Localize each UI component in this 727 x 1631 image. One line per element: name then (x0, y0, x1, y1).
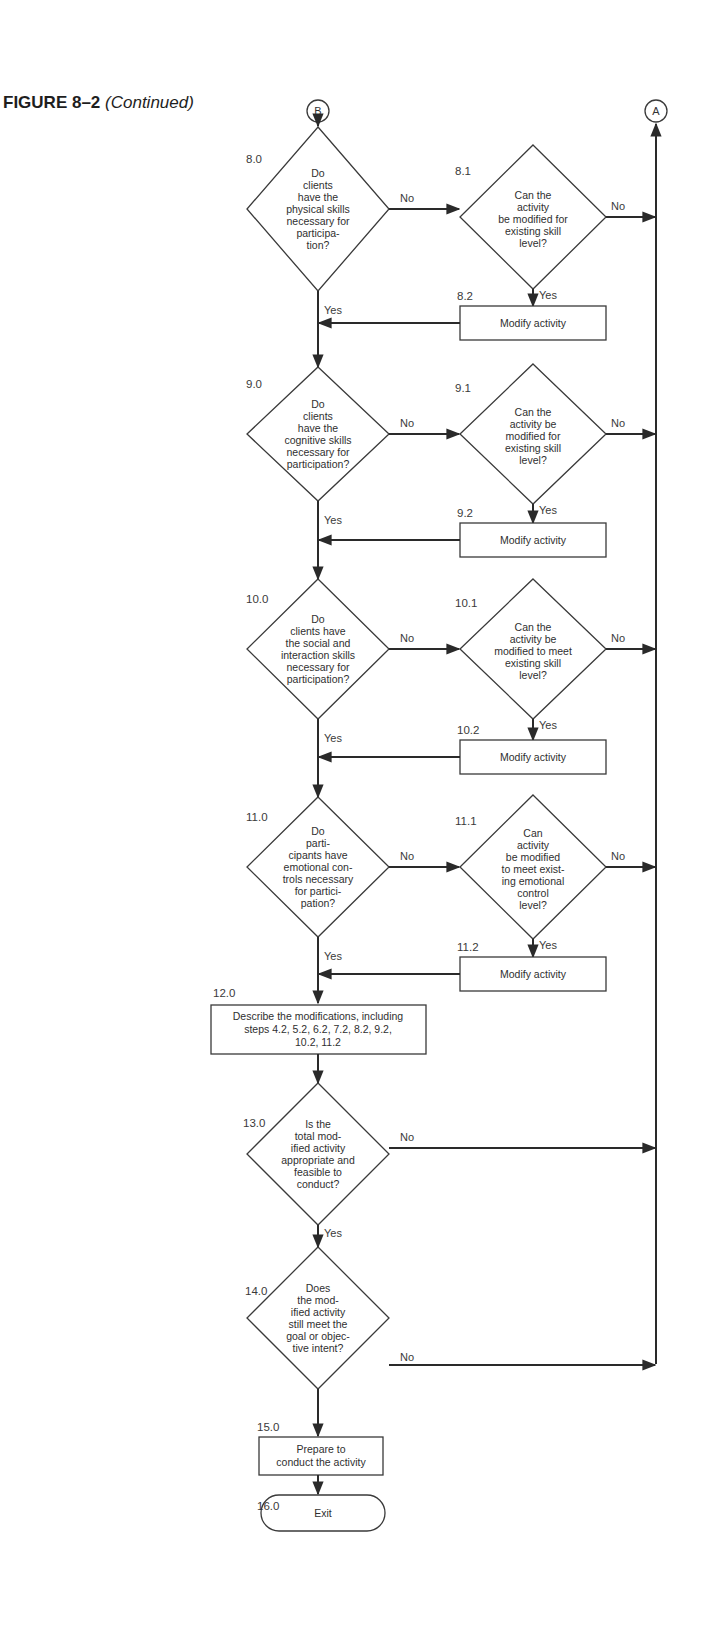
step-number: 9.0 (246, 378, 262, 390)
modify-activity-label: Modify activity (500, 534, 567, 546)
no-label: No (611, 632, 625, 644)
decision-question-line: pation? (301, 897, 336, 909)
step-number: 10.0 (246, 593, 268, 605)
decision-question-line: cognitive skills (284, 434, 351, 446)
decision-question-line: necessary for (286, 215, 350, 227)
decision-question-line: Does (306, 1282, 331, 1294)
alt-decision-question-line: activity (517, 201, 550, 213)
yes-label: Yes (324, 1227, 342, 1239)
decision-question-line: tion? (307, 239, 330, 251)
step-number: 13.0 (243, 1117, 265, 1129)
decision-question-line: have the (298, 422, 338, 434)
no-label: No (400, 192, 414, 204)
no-label: No (400, 1131, 414, 1143)
alt-decision-question-line: to meet exist- (501, 863, 565, 875)
alt-decision-question-line: Can (523, 827, 542, 839)
step-number: 11.0 (246, 811, 268, 823)
step-number: 8.2 (457, 290, 473, 302)
decision-question-line: feasible to (294, 1166, 342, 1178)
decision-question-line: trols necessary (283, 873, 354, 885)
prepare-activity-text-line: Prepare to (296, 1443, 345, 1455)
decision-question-line: physical skills (286, 203, 350, 215)
decision-question-line: have the (298, 191, 338, 203)
decision-question-line: ified activity (291, 1142, 346, 1154)
yes-label: Yes (539, 719, 557, 731)
step-number: 14.0 (245, 1285, 267, 1297)
decision-question-line: Do (311, 167, 325, 179)
describe-modifications-text-line: 10.2, 11.2 (295, 1036, 341, 1048)
decision-question-line: parti- (306, 837, 330, 849)
decision-question-line: participa- (296, 227, 340, 239)
decision-question-line: the mod- (297, 1294, 339, 1306)
alt-decision-question-line: control (517, 887, 549, 899)
connector-a-label: A (652, 105, 660, 117)
decision-question-line: emotional con- (284, 861, 353, 873)
connector-a: A (645, 100, 667, 122)
yes-label: Yes (324, 732, 342, 744)
decision-question-line: Is the (305, 1118, 331, 1130)
connector-b: B (307, 100, 329, 122)
step-number: 8.1 (455, 165, 471, 177)
alt-decision-question-line: existing skill (505, 225, 561, 237)
alt-decision-question-line: Can the (515, 621, 552, 633)
decision-question-line: total mod- (295, 1130, 342, 1142)
decision-question-line: still meet the (289, 1318, 348, 1330)
decision-question-line: necessary for (286, 446, 350, 458)
decision-question-line: Do (311, 825, 325, 837)
alt-decision-question-line: existing skill (505, 442, 561, 454)
modify-activity-label: Modify activity (500, 751, 567, 763)
decision-question-line: participation? (287, 673, 350, 685)
alt-decision-question-line: activity be (510, 418, 557, 430)
step-number: 9.1 (455, 382, 471, 394)
alt-decision-question-line: Can the (515, 189, 552, 201)
step-number: 15.0 (257, 1421, 279, 1433)
alt-decision-question-line: modified to meet (494, 645, 572, 657)
yes-label: Yes (324, 950, 342, 962)
alt-decision-question-line: level? (519, 454, 547, 466)
alt-decision-question-line: ing emotional (502, 875, 564, 887)
alt-decision-question-line: modified for (506, 430, 561, 442)
connector-b-label: B (314, 105, 321, 117)
decision-question-line: the social and (286, 637, 351, 649)
no-label: No (611, 200, 625, 212)
step-number: 10.2 (457, 724, 479, 736)
no-label: No (400, 1351, 414, 1363)
no-label: No (400, 850, 414, 862)
yes-label: Yes (539, 289, 557, 301)
alt-decision-question-line: be modified (506, 851, 560, 863)
exit-label: Exit (314, 1507, 332, 1519)
decision-question-line: Do (311, 613, 325, 625)
yes-label: Yes (539, 939, 557, 951)
flowchart: BA8.0Doclientshave thephysical skillsnec… (0, 0, 727, 1631)
yes-label: Yes (324, 304, 342, 316)
no-label: No (400, 632, 414, 644)
decision-question-line: appropriate and (281, 1154, 355, 1166)
decision-question-line: clients (303, 179, 333, 191)
step-number: 16.0 (257, 1500, 279, 1512)
modify-activity-label: Modify activity (500, 317, 567, 329)
alt-decision-question-line: level? (519, 669, 547, 681)
decision-question-line: ified activity (291, 1306, 346, 1318)
decision-question-line: tive intent? (293, 1342, 344, 1354)
decision-question-line: interaction skills (281, 649, 355, 661)
alt-decision-question-line: level? (519, 899, 547, 911)
step-number: 10.1 (455, 597, 477, 609)
decision-question-line: for partici- (295, 885, 342, 897)
modify-activity-label: Modify activity (500, 968, 567, 980)
alt-decision-question-line: be modified for (498, 213, 568, 225)
decision-question-line: necessary for (286, 661, 350, 673)
no-label: No (400, 417, 414, 429)
decision-question-line: goal or objec- (286, 1330, 350, 1342)
decision-question-line: Do (311, 398, 325, 410)
describe-modifications-text-line: steps 4.2, 5.2, 6.2, 7.2, 8.2, 9.2, (244, 1023, 392, 1035)
step-number: 11.1 (455, 815, 477, 827)
step-number: 12.0 (213, 987, 235, 999)
decision-question-line: clients have (290, 625, 346, 637)
decision-question-line: clients (303, 410, 333, 422)
step-number: 11.2 (457, 941, 479, 953)
no-label: No (611, 417, 625, 429)
alt-decision-question-line: Can the (515, 406, 552, 418)
describe-modifications-text-line: Describe the modifications, including (233, 1010, 404, 1022)
alt-decision-question-line: activity be (510, 633, 557, 645)
decision-question-line: cipants have (289, 849, 348, 861)
